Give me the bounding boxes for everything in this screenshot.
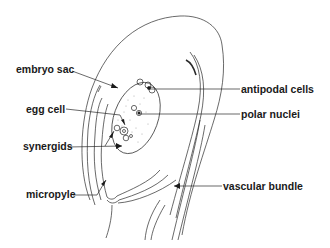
- leader-synergids: [68, 146, 122, 147]
- embryo-sac: [103, 76, 170, 161]
- micropyle-canal: [107, 196, 119, 203]
- inner-integument-right: [170, 52, 200, 215]
- label-egg-cell: egg cell: [26, 104, 65, 115]
- label-antipodal-cells: antipodal cells: [241, 84, 314, 95]
- label-vascular-bundle: vascular bundle: [223, 181, 303, 192]
- label-synergids: synergids: [23, 141, 73, 152]
- label-polar-nuclei: polar nuclei: [241, 109, 300, 120]
- inner-integument-left: [87, 85, 100, 205]
- leader-egg-cell: [66, 109, 125, 125]
- egg-apparatus: [114, 125, 132, 141]
- antipodal-cells: [137, 79, 155, 93]
- leader-embryo-sac: [72, 71, 118, 88]
- label-micropyle: micropyle: [26, 189, 76, 200]
- ovule-diagram: [0, 0, 330, 248]
- label-embryo-sac: embryo sac: [16, 64, 74, 75]
